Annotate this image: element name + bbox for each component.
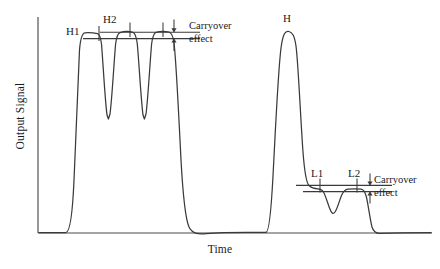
carryover-bottom-line2: effect <box>374 187 417 200</box>
x-axis-label: Time <box>0 243 440 255</box>
carryover-top-line2: effect <box>189 33 232 46</box>
carryover-effect-annotation-bottom: Carryover effect <box>374 174 417 200</box>
carryover-bottom-line1: Carryover <box>374 174 417 187</box>
label-l2: L2 <box>348 168 360 179</box>
carryover-gap-indicator-bottom <box>367 174 372 204</box>
axis-lines <box>38 17 432 233</box>
carryover-top-line1: Carryover <box>189 20 232 33</box>
y-axis-label: Output Signal <box>14 61 26 171</box>
label-l1: L1 <box>311 168 323 179</box>
label-h1: H1 <box>66 26 79 37</box>
high-sample-trace <box>39 31 266 233</box>
label-h: H <box>283 13 291 24</box>
low-sample-trace <box>266 31 431 233</box>
carryover-effect-annotation-top: Carryover effect <box>189 20 232 46</box>
carryover-effect-figure: H1 H2 H L1 L2 Carryover effect Carryover… <box>0 0 440 269</box>
label-h2: H2 <box>103 14 116 25</box>
